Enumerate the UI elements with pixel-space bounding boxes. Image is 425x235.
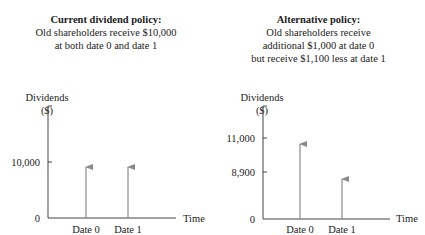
left-tick-label-0: 0 (35, 213, 40, 224)
left-category-date0: Date 0 (72, 224, 100, 235)
right-category-date1: Date 1 (328, 224, 356, 235)
right-xlabel: Time (396, 213, 418, 224)
left-chart: Dividends ($) 10,000 0 Date 0 Date 1 Tim… (11, 92, 205, 235)
right-ylabel-line1: Dividends (240, 92, 283, 103)
right-tick-label-8900: 8,900 (231, 167, 255, 178)
right-category-date0: Date 0 (286, 224, 314, 235)
left-ylabel-line1: Dividends (25, 92, 68, 103)
left-tick-label-10000: 10,000 (11, 157, 40, 168)
right-tick-label-0: 0 (250, 214, 255, 225)
right-tick-label-11000: 11,000 (227, 133, 256, 144)
left-category-date1: Date 1 (114, 224, 142, 235)
right-chart: Dividends ($) 11,000 8,900 0 Date 0 Date… (227, 92, 419, 235)
dividend-diagrams: Dividends ($) 10,000 0 Date 0 Date 1 Tim… (0, 0, 425, 235)
left-ylabel-line2: ($) (41, 105, 54, 117)
right-ylabel-line2: ($) (256, 105, 269, 117)
left-xlabel: Time (183, 213, 205, 224)
